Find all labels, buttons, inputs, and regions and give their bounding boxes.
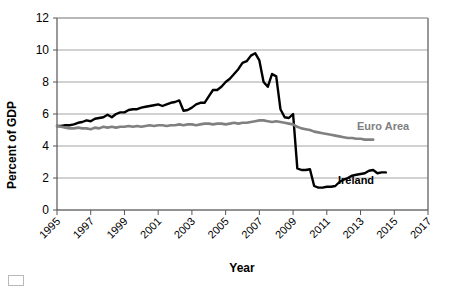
- chart-container: 121086420 199519971999200120032005200720…: [0, 0, 464, 289]
- x-tick-label: 2007: [239, 215, 265, 241]
- line-chart: 121086420 199519971999200120032005200720…: [0, 0, 464, 289]
- y-tick-label: 2: [42, 171, 49, 185]
- series-label-euro-area: Euro Area: [357, 120, 410, 132]
- x-tick-label: 2005: [205, 215, 231, 241]
- y-axis-tick-labels: 121086420: [36, 11, 57, 217]
- x-tick-label: 1995: [37, 215, 63, 241]
- y-tick-label: 8: [42, 75, 49, 89]
- series-lines: [57, 53, 386, 187]
- x-tick-label: 2001: [138, 215, 164, 241]
- x-tick-label: 2013: [340, 215, 366, 241]
- x-tick-label: 2017: [408, 215, 434, 241]
- x-tick-label: 2011: [307, 215, 332, 240]
- x-axis-ticks: [57, 210, 428, 215]
- series-line-ireland: [57, 53, 386, 187]
- y-tick-label: 12: [36, 11, 50, 25]
- y-axis-title: Percent of GDP: [5, 101, 19, 189]
- series-line-euro-area: [57, 120, 373, 139]
- series-label-ireland: Ireland: [338, 174, 374, 186]
- y-tick-label: 4: [42, 139, 49, 153]
- y-tick-label: 10: [36, 43, 50, 57]
- x-tick-label: 2009: [273, 215, 299, 241]
- y-tick-label: 6: [42, 107, 49, 121]
- x-tick-label: 2003: [172, 215, 198, 241]
- y-tick-label: 0: [42, 203, 49, 217]
- x-tick-label: 2015: [374, 215, 400, 241]
- x-axis-tick-labels: 1995199719992001200320052007200920112013…: [37, 215, 434, 241]
- series-inline-labels: IrelandEuro Area: [338, 120, 410, 186]
- footer-marker: [8, 275, 24, 286]
- x-tick-label: 1997: [70, 215, 96, 241]
- x-axis-title: Year: [229, 261, 255, 275]
- x-tick-label: 1999: [104, 215, 130, 241]
